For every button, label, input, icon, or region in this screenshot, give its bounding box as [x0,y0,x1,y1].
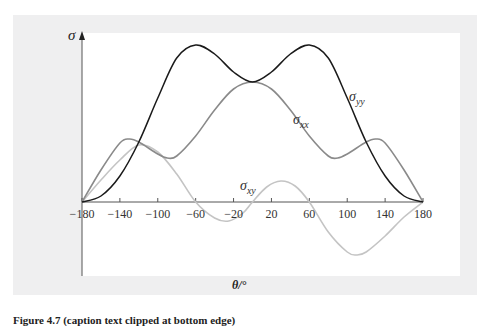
x-tick-label: 100 [338,207,356,222]
x-tick-label: 20 [265,207,277,222]
x-tick-label: 180 [414,207,432,222]
y-axis-arrow-icon [79,31,85,40]
curves [82,45,423,255]
x-tick-label: −20 [224,207,243,222]
x-tick-label: −180 [70,207,95,222]
figure-caption: Figure 4.7 (caption text clipped at bott… [13,314,477,326]
x-tick-label: −140 [107,207,132,222]
label-sigma-xy: σxy [240,178,256,196]
label-sigma-yy: σyy [349,89,365,107]
label-sigma-xx: σxx [293,112,309,130]
y-axis-label: σ [68,27,75,44]
x-tick-label: 140 [376,207,394,222]
x-tick-label: −100 [145,207,170,222]
x-tick-label: −60 [186,207,205,222]
x-tick-label: 60 [303,207,315,222]
x-axis-label: θ/° [232,278,246,293]
curve-σxy [82,145,423,255]
